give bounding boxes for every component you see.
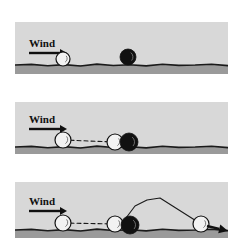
black-particle xyxy=(120,49,136,65)
impact-state-panel: Wind xyxy=(15,102,228,154)
initial-state-panel: Wind xyxy=(15,22,228,74)
black-particle xyxy=(120,133,138,151)
white-particle-start xyxy=(55,215,71,231)
wind-label: Wind xyxy=(29,114,55,125)
wind-label: Wind xyxy=(29,38,55,49)
saltation-figure: WindWindWind xyxy=(0,0,238,243)
white-particle xyxy=(56,52,70,66)
impact-state-canvas xyxy=(15,102,228,154)
ejection-state-panel: Wind xyxy=(15,182,228,238)
ejection-state-canvas xyxy=(15,182,228,238)
white-particle-start xyxy=(55,132,71,148)
white-particle-ejected xyxy=(193,216,209,232)
wind-label: Wind xyxy=(29,196,55,207)
white-particle-impacting xyxy=(107,216,123,232)
black-particle xyxy=(121,216,139,234)
